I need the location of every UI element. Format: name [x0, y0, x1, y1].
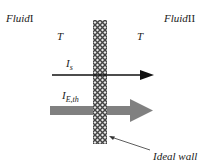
temperature-right-label: T	[137, 30, 143, 42]
energy-current-label: IE,th	[62, 89, 79, 104]
entropy-current-label: Is	[66, 57, 73, 72]
temperature-left-label: T	[57, 30, 63, 42]
diagram-canvas	[0, 0, 210, 167]
ideal-wall-label: Ideal wall	[153, 150, 197, 162]
ideal-wall	[93, 20, 107, 144]
wall-pointer-arrow	[109, 136, 150, 150]
fluid-two-label: FluidII	[164, 12, 195, 24]
fluid-one-label: FluidI	[6, 12, 34, 24]
